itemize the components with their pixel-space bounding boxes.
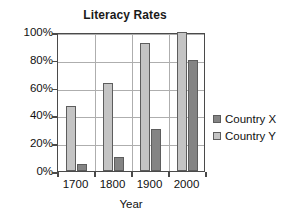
- bar: [77, 164, 87, 171]
- legend-swatch-icon: [213, 132, 221, 140]
- x-axis-tick-mark: [94, 172, 96, 177]
- y-axis-tick-label: 20%: [7, 138, 53, 149]
- bar-group: [95, 34, 132, 171]
- legend-item[interactable]: Country X: [213, 111, 276, 126]
- x-axis-tick-mark: [131, 172, 133, 177]
- bar: [140, 43, 150, 171]
- x-axis-tick-mark: [57, 172, 59, 177]
- y-axis-tick-label: 100%: [7, 27, 53, 38]
- literacy-rates-chart: Literacy Rates 100%80%60%40%20%0% 170018…: [0, 0, 308, 224]
- legend-swatch-icon: [213, 115, 221, 123]
- chart-legend: Country XCountry Y: [213, 111, 276, 145]
- y-axis-tick-label: 60%: [7, 83, 53, 94]
- x-axis-tick-label: 1700: [56, 178, 96, 190]
- bar: [151, 129, 161, 171]
- bar: [177, 32, 187, 171]
- bar: [188, 60, 198, 171]
- bar: [103, 83, 113, 171]
- plot-area: [57, 33, 205, 172]
- legend-label: Country X: [225, 113, 276, 125]
- y-axis-tick-label: 0%: [7, 166, 53, 177]
- x-axis-tick-mark: [205, 172, 207, 177]
- x-axis-tick-label: 2000: [167, 178, 207, 190]
- x-axis-tick-label: 1900: [130, 178, 170, 190]
- y-axis-tick-label: 40%: [7, 110, 53, 121]
- x-axis-title: Year: [57, 198, 205, 210]
- bar-group: [58, 34, 95, 171]
- x-axis-tick-label: 1800: [93, 178, 133, 190]
- x-axis-tick-mark: [168, 172, 170, 177]
- bar: [66, 106, 76, 171]
- bar-group: [132, 34, 169, 171]
- legend-item[interactable]: Country Y: [213, 128, 276, 143]
- y-axis-tick-label: 80%: [7, 55, 53, 66]
- bar-group: [169, 34, 206, 171]
- legend-label: Country Y: [225, 130, 276, 142]
- bar: [114, 157, 124, 171]
- chart-title: Literacy Rates: [0, 8, 250, 22]
